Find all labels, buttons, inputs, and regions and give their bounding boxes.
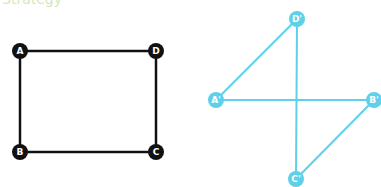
svg-text:D: D <box>152 46 159 56</box>
vertex-d-prime: D' <box>289 11 305 27</box>
vertex-c: C <box>148 144 164 160</box>
svg-text:B: B <box>17 147 24 157</box>
edge-b-prime-c-prime <box>296 100 374 179</box>
vertex-d: D <box>148 43 164 59</box>
svg-text:A': A' <box>211 95 221 105</box>
original-square: A D C B <box>12 43 164 160</box>
svg-text:A: A <box>17 46 24 56</box>
vertex-a-prime: A' <box>208 92 224 108</box>
svg-text:B': B' <box>369 95 379 105</box>
vertex-a: A <box>12 43 28 59</box>
svg-text:D': D' <box>292 14 302 24</box>
svg-text:C': C' <box>291 174 300 184</box>
transformed-figure: A' B' C' D' <box>208 11 381 187</box>
svg-text:C: C <box>153 147 160 157</box>
vertex-b: B <box>12 144 28 160</box>
graph-diagram: A D C B A' B' C' D' <box>0 0 381 187</box>
vertex-c-prime: C' <box>288 171 304 187</box>
edge-a-prime-d-prime <box>216 19 297 100</box>
